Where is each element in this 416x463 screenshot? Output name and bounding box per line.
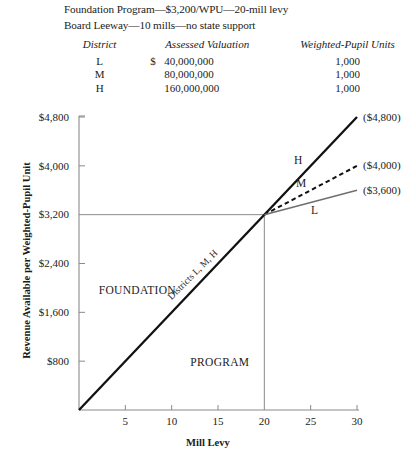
series-label-l: L	[311, 204, 318, 216]
annotation-program: PROGRAM	[190, 356, 249, 368]
series-line-h	[264, 117, 357, 215]
x-tick-label: 25	[305, 415, 317, 425]
y-tick-label: $4,000	[39, 160, 70, 172]
endpoint-label-l: ($3,600)	[363, 184, 401, 197]
dollar-sign: $	[150, 55, 156, 69]
column-header-weighted-pupil-units: Weighted-Pupil Units	[279, 38, 416, 55]
cell-valuation: $40,000,000	[135, 55, 279, 69]
endpoint-label-m: ($4,000)	[363, 159, 401, 172]
annotation-districts-l-m-h: Districts L, M, H	[165, 247, 219, 301]
revenue-vs-mill-levy-chart: $800$1,600$2,400$3,200$4,000$4,800510152…	[0, 105, 416, 425]
endpoint-label-h: ($4,800)	[363, 111, 401, 124]
cell-valuation: 80,000,000	[135, 68, 279, 82]
district-table: District Assessed Valuation Weighted-Pup…	[64, 38, 416, 95]
y-tick-label: $4,800	[39, 111, 70, 123]
series-label-m: M	[296, 177, 306, 189]
chart-svg: $800$1,600$2,400$3,200$4,000$4,800510152…	[0, 105, 416, 425]
header-note-line-1: Foundation Program—$3,200/WPU—20-mill le…	[64, 2, 288, 18]
column-header-district: District	[64, 38, 135, 55]
y-tick-label: $2,400	[39, 257, 70, 269]
x-tick-label: 30	[352, 415, 364, 425]
valuation-value: 160,000,000	[150, 82, 264, 96]
cell-district: H	[64, 82, 135, 96]
y-tick-label: $800	[47, 355, 70, 367]
x-tick-label: 5	[123, 415, 129, 425]
y-tick-label: $1,600	[39, 306, 70, 318]
table-row: H 160,000,000 1,000	[64, 82, 416, 96]
series-label-h: H	[294, 154, 302, 166]
valuation-value: $40,000,000	[150, 55, 264, 69]
column-header-assessed-valuation: Assessed Valuation	[135, 38, 279, 55]
valuation-number: 160,000,000	[164, 82, 219, 94]
cell-valuation: 160,000,000	[135, 82, 279, 96]
header-note: Foundation Program—$3,200/WPU—20-mill le…	[64, 2, 288, 33]
cell-wpu: 1,000	[279, 82, 416, 96]
cell-district: L	[64, 55, 135, 69]
table-header-row: District Assessed Valuation Weighted-Pup…	[64, 38, 416, 55]
annotations-layer: FOUNDATIONPROGRAMDistricts L, M, H	[99, 247, 250, 368]
x-tick-label: 15	[213, 415, 225, 425]
table-row: L $40,000,000 1,000	[64, 55, 416, 69]
x-tick-label: 20	[259, 415, 271, 425]
cell-wpu: 1,000	[279, 68, 416, 82]
valuation-number: 80,000,000	[164, 68, 214, 80]
cell-wpu: 1,000	[279, 55, 416, 69]
valuation-number: 40,000,000	[164, 55, 214, 67]
valuation-value: 80,000,000	[150, 68, 264, 82]
series-line-districts-l-m-h	[79, 215, 264, 410]
x-tick-label: 10	[166, 415, 178, 425]
table-row: M 80,000,000 1,000	[64, 68, 416, 82]
cell-district: M	[64, 68, 135, 82]
y-axis-title: Revenue Available per Weighted-Pupil Uni…	[21, 146, 32, 376]
x-axis-title: Mill Levy	[0, 437, 416, 448]
y-tick-label: $3,200	[39, 208, 70, 220]
header-note-line-2: Board Leeway—10 mills—no state support	[64, 18, 288, 34]
